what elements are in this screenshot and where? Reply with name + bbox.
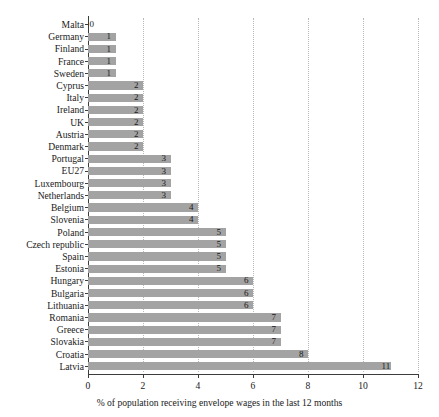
category-label: Slovakia xyxy=(50,335,84,348)
y-axis-tick xyxy=(85,122,88,123)
bar-value-label: 1 xyxy=(107,67,112,80)
category-label: Hungary xyxy=(50,274,84,287)
x-axis-tick xyxy=(88,374,89,378)
bar-value-label: 2 xyxy=(134,128,139,141)
category-label: Finland xyxy=(55,42,84,55)
category-label: Romania xyxy=(49,311,84,324)
y-axis-tick xyxy=(85,97,88,98)
x-axis-tick-label: 12 xyxy=(413,380,423,392)
bar-row: 7 xyxy=(88,335,418,348)
bar-value-label: 7 xyxy=(272,311,277,324)
bar xyxy=(88,338,281,346)
category-label: Slovenia xyxy=(50,213,84,226)
x-axis-tick-label: 8 xyxy=(306,380,311,392)
y-axis-tick xyxy=(85,158,88,159)
bar-row: 2 xyxy=(88,103,418,116)
x-axis-tick xyxy=(363,374,364,378)
x-axis-tick-label: 0 xyxy=(86,380,91,392)
y-axis-tick xyxy=(85,171,88,172)
bar-row: 4 xyxy=(88,201,418,214)
category-label: Latvia xyxy=(59,360,84,373)
category-label: Bulgaria xyxy=(51,287,84,300)
bar-value-label: 4 xyxy=(189,201,194,214)
category-label: Spain xyxy=(62,250,84,263)
bar-row: 2 xyxy=(88,140,418,153)
bar-row: 2 xyxy=(88,116,418,129)
bar xyxy=(88,57,116,65)
y-axis-tick xyxy=(85,195,88,196)
bar xyxy=(88,265,226,273)
bar-value-label: 1 xyxy=(107,30,112,43)
category-label: Sweden xyxy=(54,67,84,80)
bar xyxy=(88,228,226,236)
y-axis-tick xyxy=(85,61,88,62)
bar-row: 7 xyxy=(88,323,418,336)
y-axis-tick xyxy=(85,24,88,25)
bar-row: 5 xyxy=(88,262,418,275)
x-axis-tick xyxy=(418,374,419,378)
category-label: Ireland xyxy=(57,103,84,116)
bar-value-label: 8 xyxy=(299,348,304,361)
y-axis-tick xyxy=(85,85,88,86)
bar-value-label: 6 xyxy=(244,299,249,312)
category-label: Denmark xyxy=(48,140,84,153)
bar-row: 3 xyxy=(88,177,418,190)
bar-row: 1 xyxy=(88,42,418,55)
y-axis-tick xyxy=(85,366,88,367)
bar-value-label: 5 xyxy=(217,250,222,263)
y-axis-tick xyxy=(85,305,88,306)
bar-value-label: 7 xyxy=(272,335,277,348)
bar xyxy=(88,179,171,187)
bar-value-label: 6 xyxy=(244,287,249,300)
x-axis-tick xyxy=(308,374,309,378)
bar-value-label: 2 xyxy=(134,140,139,153)
category-label: Malta xyxy=(62,18,84,31)
bar-value-label: 2 xyxy=(134,104,139,117)
bar xyxy=(88,277,253,285)
bar-value-label: 3 xyxy=(162,152,167,165)
y-axis-tick xyxy=(85,146,88,147)
category-label: Czech republic xyxy=(26,238,84,251)
category-label: Greece xyxy=(57,323,84,336)
bar-value-label: 3 xyxy=(162,165,167,178)
x-axis-label: % of population receiving envelope wages… xyxy=(0,396,439,409)
bar-row: 2 xyxy=(88,79,418,92)
bar xyxy=(88,350,308,358)
y-axis-tick xyxy=(85,219,88,220)
bar-row: 5 xyxy=(88,226,418,239)
category-label: France xyxy=(58,55,84,68)
plot-area: 011112222223333445555666777811 xyxy=(88,18,418,372)
bar-value-label: 11 xyxy=(382,360,391,373)
bar xyxy=(88,155,171,163)
x-axis-tick-label: 2 xyxy=(141,380,146,392)
x-axis-tick-label: 6 xyxy=(251,380,256,392)
bar-value-label: 3 xyxy=(162,177,167,190)
bar-row: 2 xyxy=(88,128,418,141)
y-axis-tick xyxy=(85,36,88,37)
bar-row: 2 xyxy=(88,91,418,104)
chart-title xyxy=(0,0,439,10)
bar xyxy=(88,203,198,211)
bar-row: 3 xyxy=(88,152,418,165)
category-label: UK xyxy=(70,116,84,129)
bar-value-label: 5 xyxy=(217,226,222,239)
category-label: Estonia xyxy=(55,262,84,275)
category-label: EU27 xyxy=(62,164,84,177)
y-axis-tick xyxy=(85,73,88,74)
y-axis-tick xyxy=(85,329,88,330)
gridline-x-12 xyxy=(418,18,419,372)
category-label: Italy xyxy=(66,91,84,104)
bar-row: 1 xyxy=(88,67,418,80)
bar-value-label: 1 xyxy=(107,43,112,56)
y-axis-tick xyxy=(85,280,88,281)
bar-value-label: 5 xyxy=(217,238,222,251)
bar-value-label: 6 xyxy=(244,274,249,287)
x-axis-tick xyxy=(253,374,254,378)
bar xyxy=(88,240,226,248)
envelope-wages-bar-chart: 011112222223333445555666777811 024681012… xyxy=(0,0,439,417)
y-axis-tick xyxy=(85,110,88,111)
bar-row: 4 xyxy=(88,213,418,226)
bar-row: 1 xyxy=(88,55,418,68)
bar xyxy=(88,69,116,77)
category-label: Poland xyxy=(57,226,84,239)
